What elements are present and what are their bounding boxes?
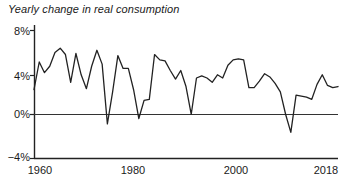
chart-page: Yearly change in real consumption 8% 4% … bbox=[0, 0, 348, 185]
consumption-change-line bbox=[34, 48, 338, 132]
axis-group bbox=[30, 25, 338, 159]
chart-plot-area bbox=[0, 0, 348, 185]
y-tick-marks bbox=[30, 31, 34, 159]
series-group bbox=[34, 48, 338, 132]
